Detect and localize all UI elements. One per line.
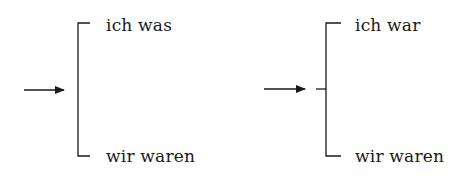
right-bracket: [326, 23, 341, 156]
left-top-label: ich was: [106, 17, 172, 34]
right-top-label: ich war: [355, 17, 421, 34]
left-bracket: [78, 23, 90, 156]
right-diagram: [264, 23, 341, 156]
paradigm-diagram: ich was wir waren ich war wir waren: [0, 0, 472, 179]
left-diagram: [24, 23, 90, 156]
left-bottom-label: wir waren: [106, 148, 195, 165]
right-bottom-label: wir waren: [355, 148, 444, 165]
